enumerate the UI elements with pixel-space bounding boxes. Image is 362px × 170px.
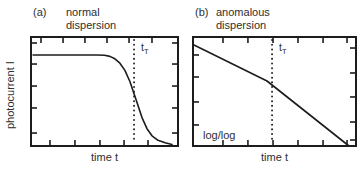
plots-canvas — [0, 0, 362, 170]
panel-a-title-line1: normal — [66, 6, 116, 19]
panel-a-transit-time-label: tT — [141, 41, 149, 56]
panel-b-title-line1: anomalous — [216, 6, 270, 19]
panel-b-tag: (b) — [195, 6, 208, 19]
panel-a-title-line2: dispersion — [66, 19, 116, 32]
plot-frame-a — [31, 37, 178, 146]
panel-b-x-axis-label: time t — [193, 151, 356, 164]
panel-b-transit-time-label: tT — [279, 41, 287, 56]
panel-b-title-line2: dispersion — [216, 19, 270, 32]
panel-a-y-axis-label: photocurrent I — [4, 61, 17, 129]
figure-photocurrent-dispersion: (a) normal dispersion photocurrent I tim… — [0, 0, 362, 170]
panel-b-scale-note: log/log — [203, 129, 235, 142]
panel-b-transit-time-sub: T — [282, 47, 287, 56]
panel-b-title: anomalous dispersion — [216, 6, 270, 32]
panel-a-x-axis-label: time t — [31, 151, 178, 164]
data-curve-a — [33, 55, 172, 145]
panel-a-tag: (a) — [33, 6, 46, 19]
panel-a-title: normal dispersion — [66, 6, 116, 32]
panel-a-transit-time-sub: T — [144, 47, 149, 56]
